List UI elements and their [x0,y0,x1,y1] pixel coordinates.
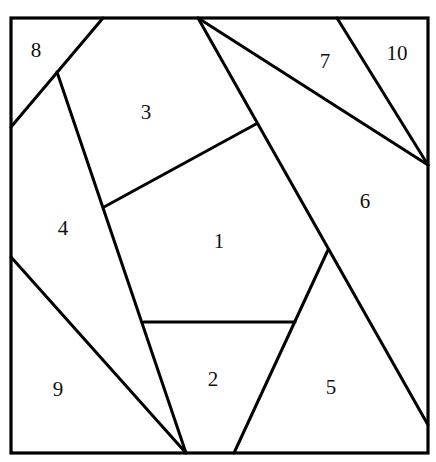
piece-label-4: 4 [58,216,69,240]
seam-line-e10 [337,18,428,165]
piece-label-2: 2 [208,367,219,391]
piece-label-5: 5 [326,375,337,399]
piece-label-8: 8 [31,38,42,62]
piece-label-6: 6 [360,189,371,213]
piece-label-10: 10 [387,41,408,65]
piece-label-9: 9 [53,377,64,401]
seam-line-e6 [198,18,428,425]
quilt-block-diagram: 12345678910 [0,0,436,462]
seam-line-e9 [11,257,186,453]
piece-label-7: 7 [320,49,331,73]
seam-line-e3a [57,72,186,453]
seam-line-e3b [104,124,256,207]
piece-labels: 12345678910 [31,38,408,401]
piece-label-3: 3 [141,100,152,124]
quilt-block-canvas: 12345678910 [0,0,436,462]
piece-label-1: 1 [214,229,225,253]
seam-line-e5 [234,250,328,453]
